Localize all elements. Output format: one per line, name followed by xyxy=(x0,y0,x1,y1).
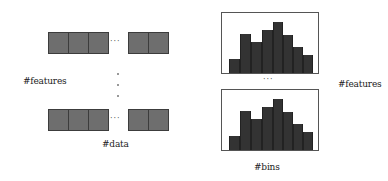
row-ellipsis: ··· xyxy=(110,37,121,46)
histogram-bar xyxy=(273,22,283,73)
histogram-bar xyxy=(293,124,303,150)
feature-cell xyxy=(88,32,109,54)
feature-cell xyxy=(48,109,69,131)
histogram-bar xyxy=(283,112,293,150)
vertical-ellipsis-dot xyxy=(117,95,119,97)
histogram-2 xyxy=(221,89,319,151)
histogram-bar xyxy=(251,42,262,73)
histogram-bar xyxy=(229,59,240,73)
histogram-1 xyxy=(221,12,319,74)
vertical-ellipsis-dot xyxy=(117,73,119,75)
features-axis-label: #features xyxy=(338,79,381,89)
features-axis-label: #features xyxy=(23,76,66,86)
feature-cell xyxy=(68,109,89,131)
feature-cell xyxy=(148,32,169,54)
histogram-bar xyxy=(251,119,262,150)
histogram-bar xyxy=(240,34,251,73)
feature-cell xyxy=(128,32,149,54)
histogram-bar xyxy=(262,107,273,150)
feature-cell xyxy=(148,109,169,131)
histogram-bar xyxy=(240,111,251,150)
row-ellipsis: ··· xyxy=(110,114,121,123)
histogram-bar xyxy=(303,55,313,73)
feature-cell xyxy=(88,109,109,131)
data-axis-label: #data xyxy=(102,139,129,149)
histogram-bar xyxy=(283,35,293,73)
vertical-ellipsis-dot xyxy=(117,84,119,86)
feature-cell xyxy=(68,32,89,54)
bins-axis-label: #bins xyxy=(254,162,280,172)
histogram-bar xyxy=(229,136,240,150)
histogram-ellipsis: ··· xyxy=(263,75,274,84)
histogram-bar xyxy=(303,132,313,150)
feature-cell xyxy=(48,32,69,54)
histogram-bar xyxy=(273,99,283,150)
feature-cell xyxy=(128,109,149,131)
histogram-bar xyxy=(293,47,303,73)
histogram-bar xyxy=(262,30,273,73)
